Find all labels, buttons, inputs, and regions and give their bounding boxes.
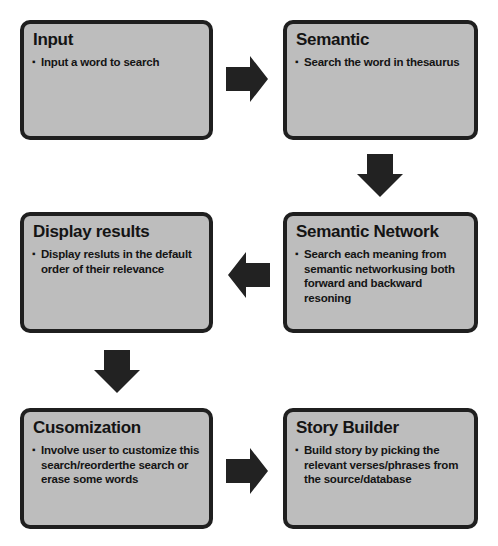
node-bullet: ▪ Input a word to search <box>32 55 201 70</box>
arrow-left-icon <box>226 250 272 300</box>
node-description: Display resluts in the default order of … <box>41 247 201 276</box>
bullet-icon: ▪ <box>32 247 41 276</box>
node-display-results: Display results ▪ Display resluts in the… <box>20 212 213 333</box>
arrow-right-icon <box>224 54 270 104</box>
node-title: Cusomization <box>33 418 201 438</box>
bullet-icon: ▪ <box>32 55 41 70</box>
node-bullet: ▪ Search each meaning from semantic netw… <box>295 247 466 305</box>
node-description: Search each meaning from semantic networ… <box>304 247 466 305</box>
node-title: Story Builder <box>296 418 466 438</box>
node-title: Semantic Network <box>296 222 466 242</box>
bullet-icon: ▪ <box>295 247 304 305</box>
bullet-icon: ▪ <box>295 443 304 487</box>
node-description: Input a word to search <box>41 55 201 70</box>
node-story-builder: Story Builder ▪ Build story by picking t… <box>283 408 478 529</box>
node-semantic: Semantic ▪ Search the word in thesaurus <box>283 20 478 140</box>
arrow-right-icon <box>224 446 270 496</box>
node-bullet: ▪ Build story by picking the relevant ve… <box>295 443 466 487</box>
bullet-icon: ▪ <box>32 443 41 487</box>
node-description: Involve user to customize this search/re… <box>41 443 201 487</box>
node-title: Input <box>33 30 201 50</box>
node-bullet: ▪ Involve user to customize this search/… <box>32 443 201 487</box>
arrow-down-icon <box>92 349 142 394</box>
node-description: Build story by picking the relevant vers… <box>304 443 466 487</box>
node-title: Display results <box>33 222 201 242</box>
arrow-down-icon <box>355 153 405 198</box>
bullet-icon: ▪ <box>295 55 304 70</box>
node-bullet: ▪ Display resluts in the default order o… <box>32 247 201 276</box>
node-cusomization: Cusomization ▪ Involve user to customize… <box>20 408 213 529</box>
node-semantic-network: Semantic Network ▪ Search each meaning f… <box>283 212 478 333</box>
node-description: Search the word in thesaurus <box>304 55 466 70</box>
node-title: Semantic <box>296 30 466 50</box>
node-bullet: ▪ Search the word in thesaurus <box>295 55 466 70</box>
node-input: Input ▪ Input a word to search <box>20 20 213 140</box>
